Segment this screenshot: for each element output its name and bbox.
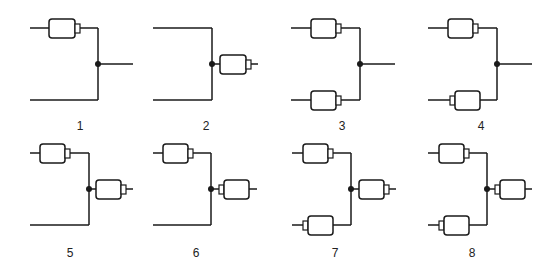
connector-icon — [303, 144, 328, 163]
diagram-label-3: 3 — [332, 119, 352, 133]
diagram-5 — [30, 144, 133, 225]
connector-flipped-icon — [500, 180, 525, 199]
junction-dot-icon — [86, 186, 92, 192]
diagram-canvas — [0, 0, 557, 274]
diagram-label-4: 4 — [471, 119, 491, 133]
junction-dot-icon — [348, 186, 354, 192]
junction-dot-icon — [209, 61, 215, 67]
connector-icon — [49, 19, 75, 38]
connector-flipped-icon — [224, 180, 249, 199]
connector-flipped-icon — [444, 216, 469, 235]
diagram-2 — [153, 28, 258, 100]
diagram-label-7: 7 — [325, 246, 345, 260]
diagram-label-2: 2 — [196, 119, 216, 133]
diagram-label-8: 8 — [462, 246, 482, 260]
diagram-1 — [30, 19, 133, 100]
diagram-label-5: 5 — [60, 246, 80, 260]
diagram-8 — [428, 144, 532, 235]
diagram-3 — [291, 19, 395, 110]
diagram-7 — [292, 144, 396, 235]
diagram-6 — [153, 144, 257, 225]
connector-icon — [359, 180, 384, 199]
junction-dot-icon — [484, 186, 490, 192]
diagram-label-6: 6 — [186, 246, 206, 260]
connector-icon — [311, 91, 336, 110]
junction-dot-icon — [357, 61, 363, 67]
junction-dot-icon — [494, 61, 500, 67]
connector-icon — [96, 180, 121, 199]
junction-dot-icon — [95, 61, 101, 67]
connector-icon — [448, 19, 473, 38]
connector-flipped-icon — [308, 216, 333, 235]
connector-icon — [439, 144, 464, 163]
diagram-4 — [428, 19, 532, 110]
connector-icon — [220, 55, 246, 74]
connector-icon — [163, 144, 188, 163]
junction-dot-icon — [208, 186, 214, 192]
connector-icon — [40, 144, 65, 163]
connector-icon — [311, 19, 336, 38]
connector-flipped-icon — [455, 91, 480, 110]
diagram-label-1: 1 — [70, 119, 90, 133]
